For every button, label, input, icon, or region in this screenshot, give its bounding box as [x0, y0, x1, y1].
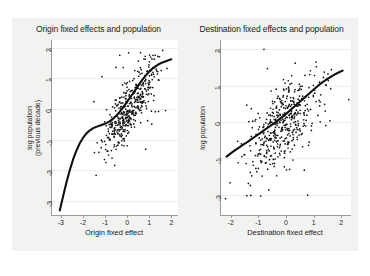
x-axis-title-origin: Origin fixed effect	[85, 228, 143, 237]
x-tick-label: 0	[125, 219, 129, 226]
x-tick-mark	[231, 215, 232, 218]
x-tick-mark	[105, 215, 106, 218]
figure-canvas: Origin fixed effects and population log …	[12, 18, 358, 251]
y-axis-title-line-2: (previous decade)	[34, 99, 42, 155]
y-axis-title-line-1: log population	[199, 106, 207, 150]
chart-panel-origin: Origin fixed effects and population log …	[12, 18, 185, 251]
x-tick-label: 1	[312, 219, 316, 226]
x-tick-mark	[258, 215, 259, 218]
x-tick-mark	[286, 215, 287, 218]
scatter-layer	[221, 40, 351, 215]
x-tick-label: -1	[102, 219, 108, 226]
plot-area-origin: 210-1-2-3-3-2-1012	[51, 40, 178, 216]
scatter-layer	[52, 40, 178, 215]
x-tick-mark	[171, 215, 172, 218]
x-tick-label: 2	[339, 219, 343, 226]
x-tick-label: 0	[284, 219, 288, 226]
panel-title-origin: Origin fixed effects and population	[12, 24, 185, 34]
chart-panel-destination: Destination fixed effects and population…	[185, 18, 358, 251]
x-tick-label: 2	[169, 219, 173, 226]
x-tick-mark	[83, 215, 84, 218]
x-tick-label: -2	[80, 219, 86, 226]
data-points	[93, 50, 168, 177]
plot-area-destination: 210-1-2-2-1012	[220, 40, 351, 216]
x-tick-label: -1	[255, 219, 261, 226]
x-axis-title-destination: Destination fixed effect	[247, 228, 323, 237]
x-tick-mark	[127, 215, 128, 218]
x-tick-mark	[341, 215, 342, 218]
data-points	[225, 48, 350, 199]
x-tick-label: -2	[228, 219, 234, 226]
y-axis-title-destination: log population	[199, 106, 207, 150]
x-tick-label: 1	[147, 219, 151, 226]
y-axis-title-line-1: log population	[26, 99, 34, 155]
x-tick-mark	[149, 215, 150, 218]
x-tick-label: -3	[58, 219, 64, 226]
panel-title-destination: Destination fixed effects and population	[185, 24, 358, 34]
y-axis-title-origin: log population (previous decade)	[26, 99, 42, 155]
x-tick-mark	[61, 215, 62, 218]
x-tick-mark	[314, 215, 315, 218]
